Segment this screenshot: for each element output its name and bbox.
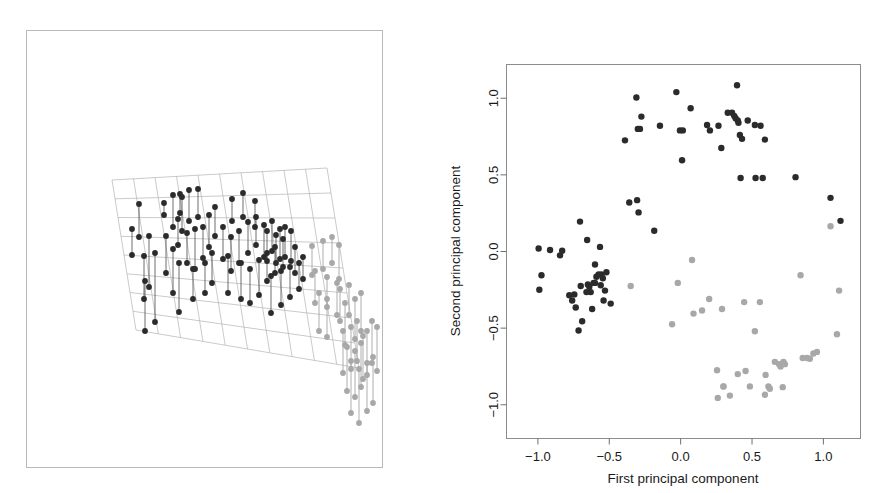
three-d-point-lower — [186, 218, 192, 224]
three-d-point-upper — [186, 187, 192, 193]
scatter-point — [762, 136, 768, 142]
y-tick-label: 0.5 — [486, 166, 501, 184]
y-tick-label: −0.5 — [486, 315, 501, 341]
scatter-point — [797, 272, 803, 278]
three-d-point-upper — [245, 219, 251, 225]
three-d-point-upper — [358, 340, 364, 346]
scatter-point — [579, 318, 585, 324]
three-d-point-upper — [209, 250, 215, 256]
scatter-point — [714, 367, 720, 373]
scatter-point — [715, 123, 721, 129]
three-d-point-upper — [320, 238, 326, 244]
three-d-point-lower — [152, 319, 158, 325]
three-d-point-lower — [352, 336, 358, 342]
scatter-point — [679, 157, 685, 163]
y-tick-label: 0.0 — [486, 242, 501, 260]
three-d-point-lower — [346, 312, 352, 318]
three-d-point-lower — [195, 214, 201, 220]
three-d-point-upper — [329, 234, 335, 240]
scatter-point — [689, 257, 695, 263]
three-d-point-lower — [288, 258, 294, 264]
y-axis-title: Second principal component — [448, 166, 463, 337]
three-d-point-lower — [225, 290, 231, 296]
scatter-point — [592, 261, 598, 267]
three-d-point-upper — [179, 194, 185, 200]
three-d-point-upper — [253, 214, 259, 220]
scatter-points-group — [535, 82, 843, 401]
scatter-point — [595, 271, 601, 277]
scatter-point — [737, 175, 743, 181]
scatter-point — [633, 94, 639, 100]
scatter-point — [634, 197, 640, 203]
scatter-point — [752, 328, 758, 334]
scatter-point — [727, 392, 733, 398]
three-d-point-lower — [364, 408, 370, 414]
three-d-point-upper — [184, 230, 190, 236]
scatter-point — [592, 280, 598, 286]
three-d-point-lower — [141, 296, 147, 302]
scatter-point — [735, 371, 741, 377]
three-d-point-upper — [269, 218, 275, 224]
three-d-point-lower — [324, 304, 330, 310]
three-d-point-lower — [212, 233, 218, 239]
drop-lines-group — [132, 189, 377, 423]
scatter-point — [538, 272, 544, 278]
y-axis-ticks: 1.00.50.0−0.5−1.0 — [486, 89, 507, 417]
three-d-point-lower — [252, 224, 258, 230]
three-d-point-upper — [192, 226, 198, 232]
three-d-point-upper — [176, 260, 182, 266]
three-d-point-upper — [238, 260, 244, 266]
three-d-point-upper — [175, 216, 181, 222]
three-d-point-lower — [273, 260, 279, 266]
three-d-point-lower — [161, 212, 167, 218]
three-d-point-upper — [261, 222, 267, 228]
scatter-point — [807, 356, 813, 362]
scatter-point — [602, 287, 608, 293]
three-d-point-upper — [358, 290, 364, 296]
three-d-point-lower — [348, 366, 354, 372]
scatter-point — [757, 123, 763, 129]
three-d-point-upper — [354, 318, 360, 324]
scatter-point — [583, 289, 589, 295]
three-d-point-lower — [354, 358, 360, 364]
three-d-point-lower — [228, 268, 234, 274]
three-d-point-upper — [277, 226, 283, 232]
three-d-point-upper — [170, 192, 176, 198]
scatter-point — [827, 223, 833, 229]
scatter-point — [608, 300, 614, 306]
three-d-point-lower — [374, 368, 380, 374]
three-d-point-upper — [300, 254, 306, 260]
three-d-point-lower — [179, 228, 185, 234]
three-d-point-lower — [296, 286, 302, 292]
three-d-point-upper — [369, 318, 375, 324]
scatter-series-group-dark — [535, 82, 843, 334]
scatter-point — [635, 209, 641, 215]
three-d-point-lower — [282, 254, 288, 260]
three-d-point-upper — [225, 253, 231, 259]
x-tick-label: −0.5 — [596, 449, 622, 464]
x-axis-title: First principal component — [608, 471, 759, 486]
three-d-point-upper — [220, 224, 226, 230]
three-d-points-group — [129, 186, 380, 426]
scatter-point — [837, 218, 843, 224]
three-d-point-upper — [170, 246, 176, 252]
scatter-point — [589, 306, 595, 312]
three-d-point-upper — [273, 232, 279, 238]
scatter-point — [767, 385, 773, 391]
three-d-point-lower — [184, 260, 190, 266]
scatter-point — [637, 126, 643, 132]
three-d-point-lower — [175, 242, 181, 248]
scatter-point — [720, 383, 726, 389]
three-d-point-lower — [300, 276, 306, 282]
three-d-point-lower — [190, 296, 196, 302]
three-d-point-upper — [190, 266, 196, 272]
scatter-point — [752, 175, 758, 181]
three-d-point-lower — [329, 260, 335, 266]
scatter-point — [687, 105, 693, 111]
three-d-point-lower — [238, 296, 244, 302]
three-d-point-upper — [287, 264, 293, 270]
scatter-point — [718, 145, 724, 151]
scatter-point — [597, 244, 603, 250]
three-d-point-upper — [360, 333, 366, 339]
three-d-point-upper — [374, 324, 380, 330]
